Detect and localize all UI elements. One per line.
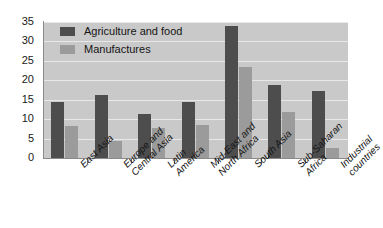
legend: Agriculture and food Manufactures [60, 26, 182, 62]
bar [51, 102, 64, 158]
legend-label-manufactures: Manufactures [84, 44, 151, 55]
y-axis-tick-label: 30 [12, 35, 34, 46]
legend-swatch-icon-manufactures [60, 45, 75, 54]
y-axis-tick-label: 20 [12, 74, 34, 85]
y-axis-tick-label: 10 [12, 113, 34, 124]
legend-item-agriculture: Agriculture and food [60, 26, 182, 37]
legend-item-manufactures: Manufactures [60, 44, 182, 55]
x-axis-category-labels: East AsiaEurope andCentral AsiaLatinAmer… [0, 158, 370, 228]
y-axis-line [43, 21, 44, 159]
legend-swatch-icon-agriculture [60, 27, 75, 36]
legend-label-agriculture: Agriculture and food [84, 26, 182, 37]
y-axis-tick-label: 25 [12, 55, 34, 66]
bar [65, 126, 78, 158]
y-axis-tick-label: 35 [12, 16, 34, 27]
y-axis-tick-label: 5 [12, 133, 34, 144]
y-axis-tick-label: 15 [12, 94, 34, 105]
